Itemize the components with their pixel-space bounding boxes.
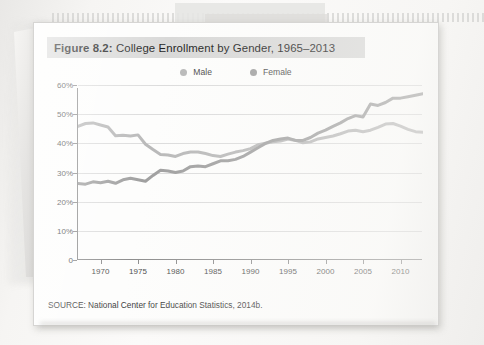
legend-label-male: Male — [193, 67, 212, 77]
x-axis-tick-label: 2010 — [392, 267, 410, 276]
y-axis-tick-label: 20% — [57, 197, 73, 206]
y-axis-tick-label: 30% — [57, 168, 73, 177]
x-axis-tick-label: 2000 — [317, 267, 335, 276]
legend-item-male: Male — [180, 67, 212, 77]
y-axis-tick — [73, 260, 77, 261]
figure-source: SOURCE: National Center for Education St… — [48, 300, 262, 310]
y-axis-labels: 010%20%30%40%50%60% — [47, 85, 73, 260]
series-line-female — [78, 94, 423, 184]
x-axis-tick-label: 1995 — [279, 267, 297, 276]
figure-title: Figure 8.2: College Enrollment by Gender… — [47, 42, 335, 54]
chart-plot-area: 010%20%30%40%50%60% 19701975198019851990… — [47, 85, 425, 290]
x-axis-tick-label: 1975 — [129, 267, 147, 276]
x-axis-tick-label: 2005 — [354, 267, 372, 276]
y-axis-tick — [73, 85, 77, 86]
legend-label-female: Female — [263, 67, 292, 77]
x-axis-tick-label: 1980 — [167, 267, 185, 276]
figure-title-band: Figure 8.2: College Enrollment by Gender… — [47, 37, 365, 58]
figure-card: Figure 8.2: College Enrollment by Gender… — [33, 22, 439, 326]
y-axis-tick-label: 50% — [57, 110, 73, 119]
book-page-photo: Figure 8.2: College Enrollment by Gender… — [0, 0, 484, 345]
card-drop-shadow — [40, 322, 436, 329]
figure-title-text: College Enrollment by Gender, 1965–2013 — [116, 42, 335, 54]
legend-swatch-male-icon — [180, 69, 187, 76]
x-axis-tick-label: 1985 — [204, 267, 222, 276]
legend-item-female: Female — [250, 67, 292, 77]
y-axis-tick-label: 40% — [57, 139, 73, 148]
x-axis-tick-label: 1990 — [242, 267, 260, 276]
y-axis-tick-label: 60% — [57, 81, 73, 90]
figure-label: Figure 8.2: — [54, 42, 113, 54]
legend-swatch-female-icon — [250, 69, 257, 76]
chart-series-lines — [78, 85, 423, 263]
y-axis-tick-label: 10% — [57, 226, 73, 235]
chart-legend: Male Female — [34, 67, 438, 77]
x-axis-tick-label: 1970 — [92, 267, 110, 276]
